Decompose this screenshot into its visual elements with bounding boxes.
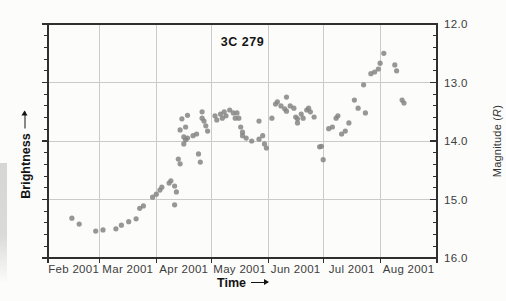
data-point <box>378 61 383 66</box>
grid-lines <box>48 24 437 258</box>
x-tick-label: Aug 2001 <box>383 263 435 275</box>
data-point <box>234 110 239 115</box>
data-point <box>183 137 188 142</box>
data-point <box>392 62 397 67</box>
y-axis-label-left-text: Brightness <box>19 133 33 198</box>
data-point <box>356 106 361 111</box>
y-tick-labels: 12.013.014.015.016.0 <box>444 18 468 264</box>
data-point <box>275 99 280 104</box>
chart-title: 3C 279 <box>48 35 437 49</box>
data-point <box>376 66 381 71</box>
y-tick-label: 14.0 <box>444 135 468 147</box>
x-tick-label: Feb 2001 <box>48 263 99 275</box>
data-point <box>203 123 208 128</box>
data-point <box>284 95 289 100</box>
data-point <box>352 98 357 103</box>
up-arrow-icon <box>24 111 26 128</box>
x-axis-label: Time <box>48 276 437 290</box>
y-tick-label: 16.0 <box>444 252 468 264</box>
data-point <box>200 109 205 114</box>
data-point <box>308 109 313 114</box>
data-point <box>249 138 254 143</box>
data-point <box>244 136 249 141</box>
data-point <box>321 157 326 162</box>
data-point <box>394 68 399 73</box>
data-point <box>264 145 269 150</box>
x-tick-label: Mar 2001 <box>102 263 153 275</box>
y-axis-label-left: Brightness <box>19 83 33 228</box>
data-point <box>256 119 261 124</box>
data-point <box>134 216 139 221</box>
data-point <box>201 119 206 124</box>
data-point <box>141 203 146 208</box>
data-point <box>183 124 188 129</box>
data-point <box>159 185 164 190</box>
data-point <box>381 51 386 56</box>
data-point <box>284 109 289 114</box>
data-point <box>119 223 124 228</box>
data-point <box>113 226 118 231</box>
data-point <box>154 192 159 197</box>
data-point <box>330 124 335 129</box>
data-point <box>69 216 74 221</box>
data-point <box>178 127 183 132</box>
y-axis-label-right: Magnitude (R) <box>491 84 503 198</box>
data-point <box>179 116 184 121</box>
x-tick-label: Apr 2001 <box>159 263 208 275</box>
data-point <box>93 229 98 234</box>
data-point <box>172 202 177 207</box>
y-tick-label: 12.0 <box>444 18 468 30</box>
data-point <box>194 131 199 136</box>
data-point <box>361 82 366 87</box>
chart-canvas: Feb 2001Mar 2001Apr 2001May 2001Jun 2001… <box>0 0 506 301</box>
x-tick-label: Jul 2001 <box>329 263 375 275</box>
data-point <box>126 219 131 224</box>
data-point <box>291 106 296 111</box>
data-point <box>172 183 177 188</box>
data-point <box>319 144 324 149</box>
data-point <box>196 151 201 156</box>
right-arrow-icon <box>251 282 268 284</box>
data-point <box>346 120 351 125</box>
data-point <box>178 161 183 166</box>
x-axis-label-text: Time <box>217 276 246 290</box>
data-point <box>238 124 243 129</box>
data-point <box>260 133 265 138</box>
data-point <box>77 222 82 227</box>
data-point <box>343 129 348 134</box>
x-tick-label: May 2001 <box>213 263 266 275</box>
data-point <box>363 110 368 115</box>
data-point <box>223 113 228 118</box>
data-point <box>205 129 210 134</box>
data-points <box>69 51 406 234</box>
data-point <box>312 114 317 119</box>
data-point <box>168 178 173 183</box>
data-point <box>214 117 219 122</box>
y-tick-label: 15.0 <box>444 194 468 206</box>
data-point <box>198 160 203 165</box>
data-point <box>185 113 190 118</box>
x-tick-labels: Feb 2001Mar 2001Apr 2001May 2001Jun 2001… <box>48 263 434 275</box>
data-point <box>335 113 340 118</box>
data-point <box>295 120 300 125</box>
data-point <box>301 116 306 121</box>
data-point <box>269 116 274 121</box>
data-point <box>174 189 179 194</box>
data-point <box>236 116 241 121</box>
x-tick-label: Jun 2001 <box>271 263 321 275</box>
data-point <box>401 100 406 105</box>
data-point <box>176 157 181 162</box>
y-tick-label: 13.0 <box>444 77 468 89</box>
axis-ticks <box>42 24 437 263</box>
data-point <box>100 227 105 232</box>
